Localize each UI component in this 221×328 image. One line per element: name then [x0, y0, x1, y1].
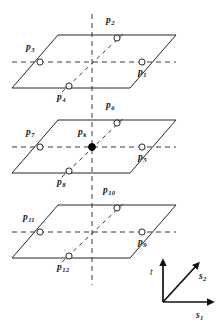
- point-label-p8: p8: [57, 178, 65, 188]
- point-label-subscript: 12: [62, 266, 69, 273]
- point-label-subscript: 5: [143, 156, 146, 163]
- point-label-subscript: 1: [143, 71, 146, 78]
- point-marker-p3[interactable]: [37, 59, 43, 65]
- figure-root: p1p2p3p4p5p6p7p8p9p10p11p12pk ts2s1: [0, 0, 221, 328]
- point-marker-p4[interactable]: [66, 83, 72, 89]
- point-label-p2: p2: [106, 16, 114, 26]
- point-marker-p7[interactable]: [37, 144, 43, 150]
- point-marker-p1[interactable]: [139, 59, 145, 65]
- point-marker-p5[interactable]: [139, 144, 145, 150]
- point-marker-pk[interactable]: [89, 144, 96, 151]
- point-label-p11: p11: [23, 213, 34, 223]
- point-marker-p11[interactable]: [37, 229, 43, 235]
- point-label-pk: pk: [78, 128, 86, 138]
- point-label-subscript: 8: [62, 181, 65, 188]
- point-marker-p2[interactable]: [114, 35, 120, 41]
- point-marker-p6[interactable]: [114, 120, 120, 126]
- markers-group: [37, 35, 145, 259]
- point-label-p6: p6: [106, 101, 114, 111]
- point-label-subscript: 10: [108, 189, 115, 196]
- point-label-p7: p7: [26, 128, 34, 138]
- point-label-p12: p12: [57, 263, 69, 273]
- point-label-subscript: 2: [111, 19, 114, 26]
- point-marker-p8[interactable]: [66, 168, 72, 174]
- point-label-subscript: k: [83, 131, 86, 138]
- point-label-subscript: 7: [31, 131, 34, 138]
- figure-caption: [0, 318, 221, 328]
- point-label-p10: p10: [103, 186, 115, 196]
- point-label-p3: p3: [26, 43, 34, 53]
- point-label-subscript: 11: [28, 216, 34, 223]
- point-label-p4: p4: [57, 93, 65, 103]
- point-label-subscript: 6: [111, 104, 114, 111]
- point-marker-p10[interactable]: [114, 205, 120, 211]
- axis-arrow-s2: [163, 266, 196, 302]
- point-label-subscript: 3: [31, 46, 34, 53]
- axis-label-s2: s2: [199, 272, 206, 282]
- point-label-p1: p1: [138, 68, 146, 78]
- point-marker-p12[interactable]: [66, 253, 72, 259]
- point-label-subscript: 4: [62, 96, 65, 103]
- point-marker-p9[interactable]: [139, 229, 145, 235]
- axis-label-base: t: [150, 267, 153, 277]
- point-label-subscript: 9: [143, 241, 146, 248]
- point-label-p5: p5: [138, 153, 146, 163]
- axis-label-subscript: 2: [203, 275, 206, 282]
- axis-label-t: t: [150, 268, 153, 278]
- axes-legend-group: [163, 264, 209, 302]
- point-label-p9: p9: [138, 238, 146, 248]
